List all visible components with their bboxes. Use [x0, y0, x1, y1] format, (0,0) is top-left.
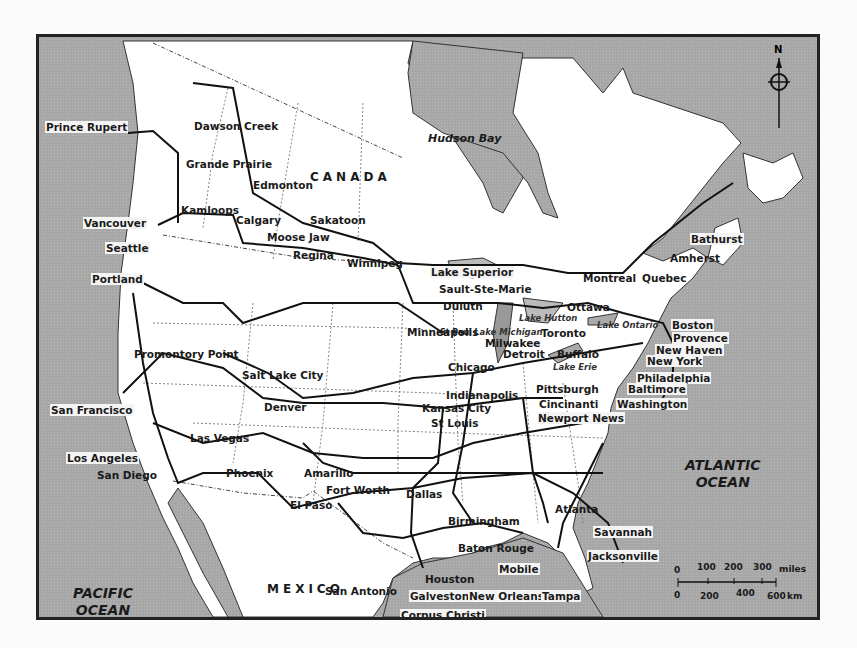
city-phoenix: Phoenix	[225, 467, 274, 479]
pacific-ocean-label: PACIFICOCEAN	[73, 585, 133, 619]
city-amherst: Amherst	[669, 252, 721, 264]
hudson-bay-label: Hudson Bay	[428, 132, 501, 145]
city-provence: Provence	[672, 332, 729, 344]
city-baltimore: Baltimore	[627, 383, 687, 395]
city-galveston: Galveston	[409, 590, 470, 602]
gulf-of-mexico-label: Gulf of Mexico	[460, 619, 573, 620]
city-fort-worth: Fort Worth	[325, 484, 391, 496]
city-tampa: Tampa	[541, 590, 581, 602]
city-st-louis: St Louis	[430, 417, 479, 429]
city-quebec: Quebec	[641, 272, 687, 284]
city-prince-rupert: Prince Rupert	[45, 121, 128, 133]
city-san-diego: San Diego	[96, 469, 158, 481]
city-savannah: Savannah	[593, 526, 653, 538]
city-san-antonio: San Antonio	[324, 585, 398, 597]
city-sault-ste-marie: Sault-Ste-Marie	[438, 283, 533, 295]
city-el-paso: El Paso	[289, 499, 333, 511]
city-dawson-creek: Dawson Creek	[193, 120, 255, 133]
lake-erie-label: Lake Erie	[553, 362, 597, 372]
city-promontory-point: Promontory Point	[133, 348, 240, 360]
city-grande-prairie: Grande Prairie	[185, 158, 237, 171]
city-salt-lake-city: Salt Lake City	[241, 369, 324, 381]
city-boston: Boston	[671, 319, 714, 331]
city-birmingham: Birmingham	[447, 515, 521, 527]
city-new-york: New York	[646, 355, 703, 367]
city-pittsburgh: Pittsburgh	[535, 383, 600, 395]
city-miami: Miami	[616, 618, 654, 620]
city-indianapolis: Indianapolis	[445, 389, 519, 401]
city-amarillo: Amarillo	[303, 467, 354, 479]
city-toronto: Toronto	[540, 327, 587, 339]
city-atlanta: Atlanta	[554, 503, 599, 515]
city-new-orleans: New Orleans	[468, 590, 545, 602]
city-moose-jaw: Moose Jaw	[266, 231, 331, 243]
city-kansas-city: Kansas City	[421, 402, 492, 414]
city-denver: Denver	[263, 401, 307, 413]
city-vancouver: Vancouver	[83, 217, 147, 229]
city-ottawa: Ottawa	[566, 301, 611, 313]
city-houston: Houston	[424, 573, 475, 585]
canada-label: CANADA	[310, 170, 391, 184]
city-st-paul: St Paul	[439, 327, 473, 339]
lake-michigan-label: Lake Michigan	[474, 327, 542, 337]
city-jacksonville: Jacksonville	[587, 550, 659, 562]
city-mobile: Mobile	[498, 563, 540, 575]
scale-bar: 0 100 200 300 miles 0 200 400 600 km	[668, 562, 818, 610]
city-los-angeles: Los Angeles	[66, 452, 139, 464]
city-lake-superior: Lake Superior	[430, 266, 514, 278]
city-washington: Washington	[616, 398, 688, 410]
city-seattle: Seattle	[105, 242, 150, 254]
city-regina: Regina	[292, 249, 335, 261]
city-dallas: Dallas	[405, 488, 443, 500]
city-baton-rouge: Baton Rouge	[457, 542, 503, 555]
city-newport-news: Newport News	[537, 412, 625, 424]
city-kamloops: Kamloops	[180, 204, 240, 216]
city-corpus-christi: Corpus Christi	[400, 609, 486, 620]
city-edmonton: Edmonton	[252, 179, 314, 191]
lake-ontario-label: Lake Ontario	[597, 320, 658, 330]
compass-rose-icon: N	[766, 44, 792, 132]
atlantic-ocean-label: ATLANTICOCEAN	[685, 457, 761, 491]
city-san-francisco: San Francisco	[50, 404, 134, 416]
lake-hutton-label: Lake Hutton	[519, 313, 577, 323]
city-duluth: Duluth	[442, 300, 484, 312]
city-las-vegas: Las Vegas	[189, 432, 250, 444]
city-sakatoon: Sakatoon	[309, 214, 367, 226]
city-buffalo: Buffalo	[556, 348, 600, 360]
city-detroit: Detroit	[502, 348, 546, 360]
city-portland: Portland	[91, 273, 144, 285]
city-montreal: Montreal	[582, 272, 637, 284]
city-calgary: Calgary	[235, 214, 282, 226]
city-winnipeg: Winnipeg	[346, 257, 404, 269]
city-chicago: Chicago	[447, 361, 496, 373]
railway-map: Hudson Bay CANADA MEXICO PACIFICOCEAN AT…	[36, 34, 820, 620]
city-cincinnanti: Cincinanti	[538, 398, 599, 410]
city-bathurst: Bathurst	[690, 233, 744, 245]
